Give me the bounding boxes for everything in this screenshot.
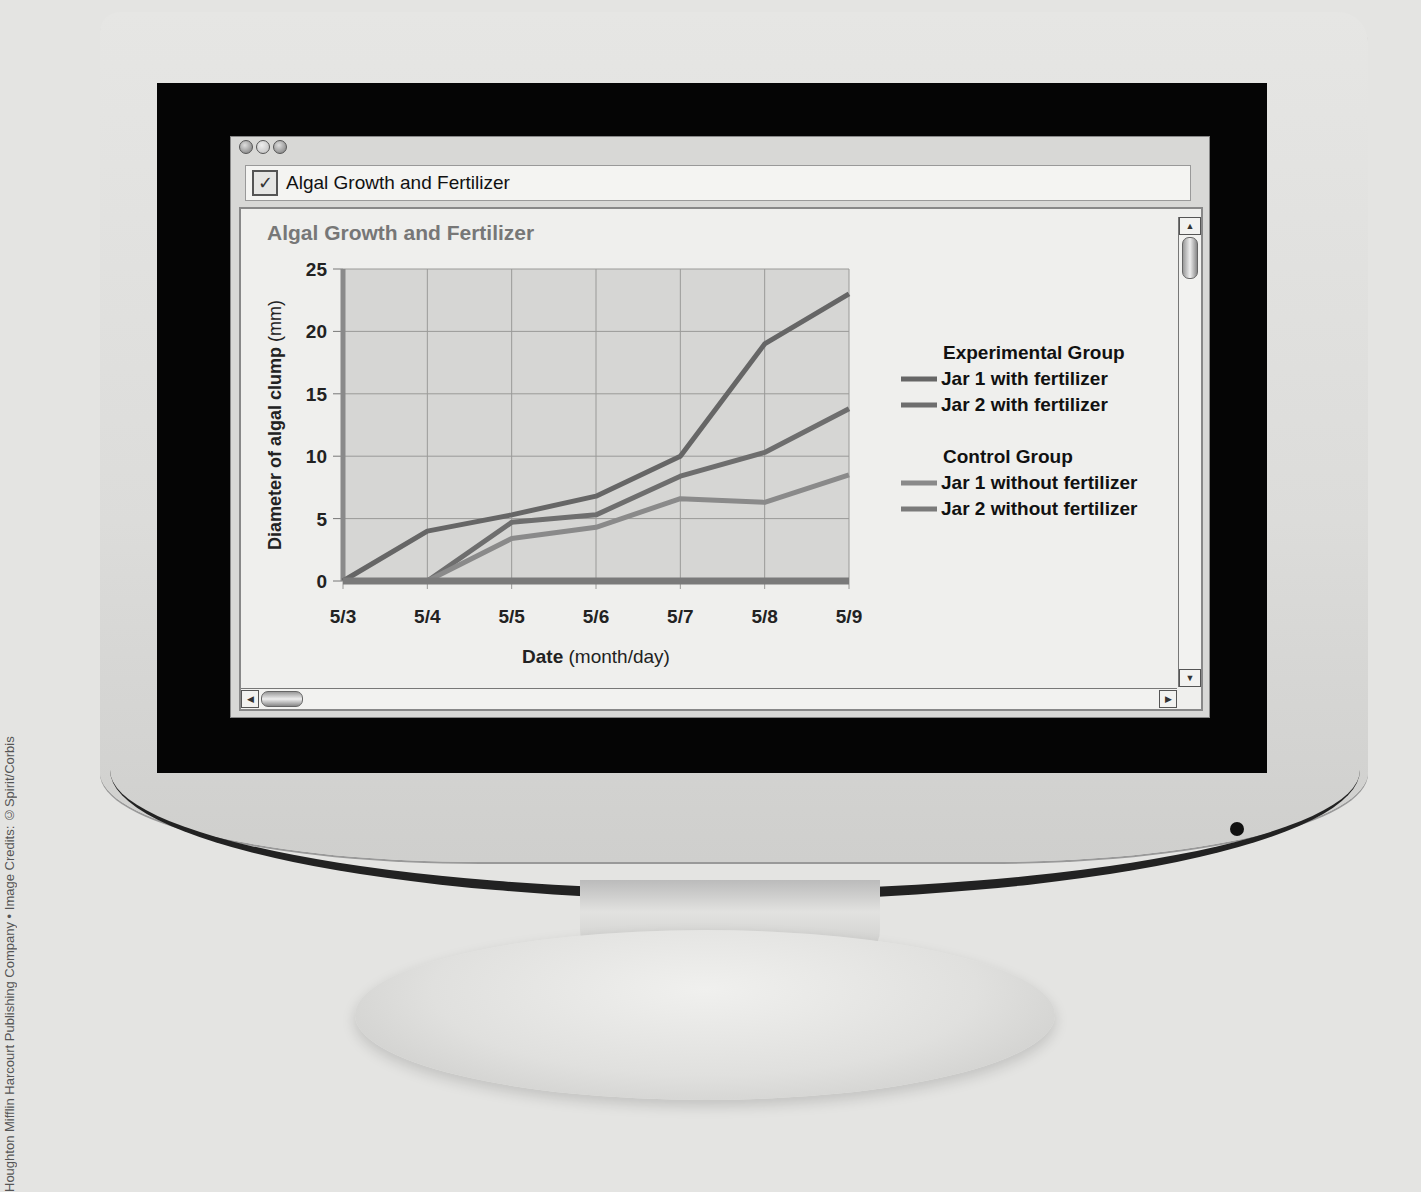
- close-window-button[interactable]: [239, 140, 253, 154]
- y-tick-label: 0: [316, 571, 327, 592]
- legend-group-title: Control Group: [943, 446, 1073, 467]
- checkmark-icon[interactable]: ✓: [252, 170, 278, 196]
- y-axis-label: Diameter of algal clump (mm): [265, 300, 285, 550]
- monitor-stand-base: [355, 930, 1055, 1100]
- app-window: ✓ Algal Growth and Fertilizer Algal Grow…: [230, 136, 1210, 718]
- chart-panel: Algal Growth and Fertilizer 05101520255/…: [239, 207, 1203, 711]
- horizontal-scroll-thumb[interactable]: [261, 691, 303, 707]
- power-indicator-icon: [1230, 822, 1244, 836]
- y-tick-label: 15: [306, 384, 328, 405]
- y-tick-label: 10: [306, 446, 327, 467]
- minimize-window-button[interactable]: [256, 140, 270, 154]
- y-tick-label: 5: [316, 509, 327, 530]
- x-tick-label: 5/9: [836, 606, 862, 627]
- scroll-right-icon[interactable]: ▶: [1159, 690, 1177, 708]
- x-axis-label: Date (month/day): [522, 646, 670, 667]
- vertical-scroll-thumb[interactable]: [1182, 237, 1198, 279]
- vertical-scrollbar[interactable]: ▲ ▼: [1178, 217, 1201, 687]
- x-tick-label: 5/6: [583, 606, 609, 627]
- x-tick-label: 5/7: [667, 606, 693, 627]
- legend-entry: Jar 1 without fertilizer: [941, 472, 1138, 493]
- scroll-down-icon[interactable]: ▼: [1179, 669, 1201, 687]
- x-tick-label: 5/3: [330, 606, 356, 627]
- x-tick-label: 5/8: [751, 606, 777, 627]
- x-tick-label: 5/5: [498, 606, 525, 627]
- legend-entry: Jar 2 without fertilizer: [941, 498, 1138, 519]
- image-credit: Houghton Mifflin Harcourt Publishing Com…: [2, 600, 22, 1192]
- y-tick-label: 25: [306, 259, 328, 280]
- line-chart: 05101520255/35/45/55/65/75/85/9Date (mon…: [241, 209, 1171, 679]
- scroll-left-icon[interactable]: ◀: [241, 690, 259, 708]
- legend-group-title: Experimental Group: [943, 342, 1125, 363]
- window-title: Algal Growth and Fertilizer: [286, 172, 510, 194]
- document-title-bar: ✓ Algal Growth and Fertilizer: [245, 165, 1191, 201]
- legend-entry: Jar 1 with fertilizer: [941, 368, 1108, 389]
- window-controls: [239, 140, 287, 154]
- horizontal-scrollbar[interactable]: ◀ ▶: [241, 688, 1177, 709]
- y-tick-label: 20: [306, 321, 327, 342]
- scroll-up-icon[interactable]: ▲: [1179, 217, 1201, 235]
- legend-entry: Jar 2 with fertilizer: [941, 394, 1108, 415]
- zoom-window-button[interactable]: [273, 140, 287, 154]
- x-tick-label: 5/4: [414, 606, 441, 627]
